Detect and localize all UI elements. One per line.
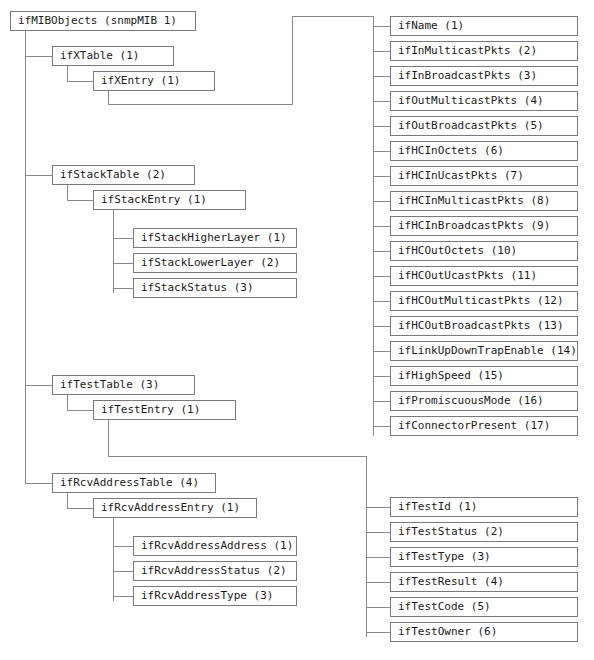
edge-root-to-ifstacktable: [25, 175, 52, 176]
mib-tree-diagram: ifMIBObjects (snmpMIB 1) ifXTable (1) if…: [0, 0, 594, 660]
edge-ifxentry-run-right: [108, 104, 293, 105]
edge-iftestentry-column-stub: [366, 582, 390, 583]
edge-ifxentry-column-stub: [373, 26, 390, 27]
edge-ifstacktable-drop: [67, 185, 68, 200]
node-ifxentry-column[interactable]: ifHCInOctets (6): [390, 141, 578, 161]
edge-iftestentry-column-stub: [366, 632, 390, 633]
edge-ifxentry-to-column-trunk: [292, 16, 374, 17]
node-ifxentry-column[interactable]: ifName (1): [390, 16, 578, 36]
edge-iftestentry-run-right: [108, 456, 367, 457]
node-ifstackentry-column[interactable]: ifStackStatus (3): [133, 278, 297, 298]
edge-ifxentry-column-stub: [373, 151, 390, 152]
node-ifxentry-column[interactable]: ifHCOutUcastPkts (11): [390, 266, 578, 286]
node-ifrcvaddressentry-column[interactable]: ifRcvAddressType (3): [133, 586, 297, 606]
edge-root-to-iftesttable: [25, 385, 52, 386]
edge-root-spine: [25, 31, 26, 483]
edge-iftestentry-column-stub: [366, 607, 390, 608]
edge-iftesttable-drop: [67, 395, 68, 410]
node-ifxentry-column[interactable]: ifConnectorPresent (17): [390, 416, 578, 436]
edge-ifxentry-column-stub: [373, 201, 390, 202]
node-ifrcvaddressentry-column[interactable]: ifRcvAddressAddress (1): [133, 536, 297, 556]
node-ifstackentry[interactable]: ifStackEntry (1): [93, 190, 246, 210]
node-ifrcvaddresstable[interactable]: ifRcvAddressTable (4): [52, 473, 216, 493]
node-iftestentry-column[interactable]: ifTestResult (4): [390, 572, 578, 592]
edge-ifxtable-to-ifxentry: [67, 81, 93, 82]
edge-ifxentry-column-stub: [373, 76, 390, 77]
edge-ifrcvaddresstable-to-entry: [67, 508, 93, 509]
edge-ifrcvaddresstable-drop: [67, 493, 68, 508]
edge-ifrcvaddressentry-column-stub: [113, 596, 133, 597]
edge-ifxentry-column-stub: [373, 51, 390, 52]
edge-ifxentry-column-stub: [373, 426, 390, 427]
edge-iftestentry-column-stub: [366, 557, 390, 558]
node-ifxentry-column[interactable]: ifInBroadcastPkts (3): [390, 66, 578, 86]
edge-ifxentry-column-stub: [373, 276, 390, 277]
node-ifrcvaddressentry-column[interactable]: ifRcvAddressStatus (2): [133, 561, 297, 581]
node-ifxentry-column[interactable]: ifOutBroadcastPkts (5): [390, 116, 578, 136]
node-root[interactable]: ifMIBObjects (snmpMIB 1): [10, 11, 196, 31]
node-ifxentry-column[interactable]: ifHCOutOctets (10): [390, 241, 578, 261]
edge-ifrcvaddressentry-trunk: [113, 518, 114, 601]
edge-ifxentry-column-stub: [373, 176, 390, 177]
edge-ifxentry-column-stub: [373, 401, 390, 402]
node-ifxentry-column[interactable]: ifLinkUpDownTrapEnable (14): [390, 341, 578, 361]
edge-ifxentry-column-stub: [373, 351, 390, 352]
node-ifrcvaddressentry[interactable]: ifRcvAddressEntry (1): [93, 498, 257, 518]
edge-ifstacktable-to-ifstackentry: [67, 200, 93, 201]
edge-ifxentry-column-stub: [373, 301, 390, 302]
edge-ifxentry-rise: [292, 16, 293, 105]
node-ifxentry-column[interactable]: ifOutMulticastPkts (4): [390, 91, 578, 111]
node-ifxtable[interactable]: ifXTable (1): [52, 46, 174, 66]
edge-root-to-ifxtable: [25, 56, 52, 57]
edge-iftesttable-to-iftestentry: [67, 410, 93, 411]
node-iftesttable[interactable]: ifTestTable (3): [52, 375, 195, 395]
node-ifxentry[interactable]: ifXEntry (1): [93, 71, 215, 91]
node-iftestentry-column[interactable]: ifTestStatus (2): [390, 522, 578, 542]
node-ifxentry-column[interactable]: ifHCInMulticastPkts (8): [390, 191, 578, 211]
node-iftestentry-column[interactable]: ifTestCode (5): [390, 597, 578, 617]
edge-ifxentry-column-stub: [373, 376, 390, 377]
edge-iftestentry-column-stub: [366, 532, 390, 533]
edge-ifstackentry-trunk: [113, 210, 114, 293]
node-iftestentry[interactable]: ifTestEntry (1): [93, 400, 236, 420]
edge-iftestentry-drop: [108, 420, 109, 456]
node-iftestentry-column[interactable]: ifTestId (1): [390, 497, 578, 517]
edge-ifstackentry-column-stub: [113, 263, 133, 264]
edge-iftestentry-column-trunk: [366, 456, 367, 637]
edge-ifxtable-drop: [67, 66, 68, 81]
node-ifstackentry-column[interactable]: ifStackLowerLayer (2): [133, 253, 297, 273]
node-ifxentry-column[interactable]: ifPromiscuousMode (16): [390, 391, 578, 411]
node-ifxentry-column[interactable]: ifHCInUcastPkts (7): [390, 166, 578, 186]
edge-ifrcvaddressentry-column-stub: [113, 546, 133, 547]
node-ifstacktable[interactable]: ifStackTable (2): [52, 165, 195, 185]
node-ifxentry-column[interactable]: ifHCInBroadcastPkts (9): [390, 216, 578, 236]
node-ifxentry-column[interactable]: ifInMulticastPkts (2): [390, 41, 578, 61]
edge-ifxentry-column-stub: [373, 126, 390, 127]
edge-ifxentry-column-stub: [373, 101, 390, 102]
edge-ifxentry-drop: [108, 91, 109, 104]
edge-ifstackentry-column-stub: [113, 288, 133, 289]
node-iftestentry-column[interactable]: ifTestOwner (6): [390, 622, 578, 642]
edge-root-to-ifrcvaddresstable: [25, 483, 52, 484]
node-ifxentry-column[interactable]: ifHCOutBroadcastPkts (13): [390, 316, 578, 336]
edge-ifxentry-column-stub: [373, 251, 390, 252]
edge-ifxentry-column-stub: [373, 226, 390, 227]
node-ifxentry-column[interactable]: ifHCOutMulticastPkts (12): [390, 291, 578, 311]
edge-iftestentry-column-stub: [366, 507, 390, 508]
edge-ifstackentry-column-stub: [113, 238, 133, 239]
edge-ifrcvaddressentry-column-stub: [113, 571, 133, 572]
node-ifxentry-column[interactable]: ifHighSpeed (15): [390, 366, 578, 386]
node-iftestentry-column[interactable]: ifTestType (3): [390, 547, 578, 567]
edge-ifxentry-column-stub: [373, 326, 390, 327]
node-ifstackentry-column[interactable]: ifStackHigherLayer (1): [133, 228, 297, 248]
